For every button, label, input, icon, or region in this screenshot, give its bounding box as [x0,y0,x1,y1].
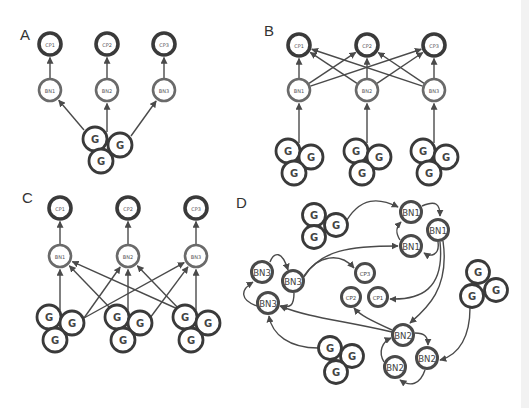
panel-a-edge-g-bn3 [131,101,156,136]
panel-d-gright-g2-label: G [492,285,500,296]
panel-d-gright-g3: G [461,285,484,308]
panel-b-cluster1-g3-label: G [290,168,298,179]
panel-a-node-g3: G [89,149,113,173]
panel-a-node-cp1-label: CP1 [45,42,55,48]
network-figure: CP1CP2CP3BN1BN2BN3GGGCP1CP2CP3BN1BN2BN3G… [0,0,529,408]
panel-d-node-bn1-b: BN1 [428,220,449,241]
panel-b-node-bn1: BN1 [288,79,310,101]
panel-c-node-cp3-label: CP3 [191,206,201,212]
panel-b-cluster1-g3: G [282,161,306,185]
panel-c-node-cp1: CP1 [49,197,71,219]
panel-b-cluster2-g1-label: G [352,146,360,157]
panel-a-node-bn2: BN2 [96,79,118,101]
panel-a-edge-g-bn1 [59,100,84,130]
panel-d-edge-g-top-bn1a [344,201,398,225]
panel-d-gbot-g2-label: G [348,351,356,362]
panel-d-edge-bn1a-bn1b [422,203,440,216]
panel-d-edge-bn2a-cp2 [354,308,392,330]
panel-c-node-bn3: BN3 [185,245,207,267]
panel-c-edge-g3-bn2 [137,266,180,310]
panel-b-node-cp2: CP2 [356,34,378,56]
panel-b-cluster3-g1: G [411,139,435,163]
panel-a-node-bn3-label: BN3 [159,88,169,94]
panel-b-cluster2-g3-label: G [358,168,366,179]
panel-d-node-bn2-b-label: BN2 [418,354,436,364]
panel-d-edge-bn3b-bn3c [281,293,294,307]
panel-d-node-cp2-label: CP2 [346,295,357,301]
panel-d-node-bn3-c: BN3 [258,293,279,314]
panel-d-node-cp3-label: CP3 [360,271,371,277]
panel-d-node-bn3-a-label: BN3 [253,268,271,278]
panel-d-edge-g-right-bn2b [440,308,470,360]
panel-b-cluster2-g2-label: G [375,152,383,163]
panel-d-node-cp1-label: CP1 [373,295,384,301]
panel-d-gright-g2: G [485,279,508,302]
panel-d-node-bn2-b: BN2 [417,348,438,369]
panel-b-cluster1-g1: G [276,139,300,163]
panel-a-node-g1-label: G [91,134,99,145]
panel-b-node-bn3-label: BN3 [429,88,439,94]
panel-c-cluster1-g3-label: G [51,335,59,346]
panel-b-node-bn1-label: BN1 [294,88,304,94]
panel-d-gbot-g1-label: G [326,343,334,354]
panel-d-gtop-g2-label: G [332,220,340,231]
panel-d-edge-bn1b-bn1c [424,242,438,255]
panel-d-gright-g1-label: G [474,267,482,278]
nodes-layer: CP1CP2CP3BN1BN2BN3GGGCP1CP2CP3BN1BN2BN3G… [37,33,508,384]
panel-c-cluster2-g3-label: G [119,335,127,346]
panel-c-node-bn2: BN2 [117,245,139,267]
panel-b-node-bn2: BN2 [356,79,378,101]
panel-b-cluster1-g2-label: G [307,152,315,163]
panel-d-node-bn1-a-label: BN1 [402,208,420,218]
panel-a-node-cp3: CP3 [153,33,175,55]
panel-a-node-g1: G [83,127,107,151]
panel-d-edge-bn2a-bn3c [280,306,392,332]
panel-d-node-bn2-c: BN2 [385,357,406,378]
panel-b-node-cp2-label: CP2 [362,43,372,49]
panel-d-node-bn3-c-label: BN3 [259,299,277,309]
panel-a-node-g2-label: G [116,140,124,151]
panel-d-gtop-g2: G [325,214,348,237]
panel-label-a: A [20,26,30,43]
panel-b-node-bn3: BN3 [423,79,445,101]
panel-b-cluster2-g1: G [344,139,368,163]
panel-d-node-bn3-b: BN3 [283,271,304,292]
panel-d-gbot-g3: G [325,361,348,384]
panel-label-b: B [264,22,274,39]
panel-c-cluster2-g2-label: G [136,318,144,329]
panel-a-node-bn3: BN3 [153,79,175,101]
panel-c-cluster3-g1: G [173,305,197,329]
panel-c-node-cp3: CP3 [185,197,207,219]
panel-a-node-cp1: CP1 [39,33,61,55]
panel-d-node-bn2-a: BN2 [393,325,414,346]
panel-a-node-cp2-label: CP2 [102,42,112,48]
panel-b-node-bn2-label: BN2 [362,88,372,94]
panel-c-node-cp2: CP2 [117,197,139,219]
panel-b-cluster3-g3-label: G [425,168,433,179]
panel-a-node-bn1-label: BN1 [45,88,55,94]
panel-d-node-bn1-c: BN1 [401,236,422,257]
panel-b-node-cp1: CP1 [288,34,310,56]
panel-c-cluster2-g1: G [105,305,129,329]
panel-c-cluster3-g2-label: G [204,318,212,329]
panel-c-node-bn3-label: BN3 [191,254,201,260]
panel-c-node-bn2-label: BN2 [123,254,133,260]
panel-d-edge-bn2a-bn2b [415,333,428,345]
panel-c-cluster2-g3: G [111,328,135,352]
panel-d-edge-bn3c-bn3a [244,282,257,306]
panel-c-node-cp2-label: CP2 [123,206,133,212]
panel-d-node-bn3-a: BN3 [252,262,273,283]
panel-a-node-bn1: BN1 [39,79,61,101]
panel-d-gtop-g3-label: G [310,232,318,243]
panel-label-c: C [22,189,33,206]
panel-b-node-cp1-label: CP1 [294,43,304,49]
panel-c-node-bn1: BN1 [49,245,71,267]
panel-b-cluster3-g3: G [417,161,441,185]
panel-d-node-bn2-c-label: BN2 [386,363,404,373]
panel-d-edge-bn1c-bn1a [397,222,401,240]
panel-b-node-cp3-label: CP3 [429,43,439,49]
panel-b-cluster1-g1-label: G [284,146,292,157]
panel-b-cluster3-g1-label: G [419,146,427,157]
panel-d-node-bn3-b-label: BN3 [284,277,302,287]
panel-d-node-cp2: CP2 [342,288,361,307]
